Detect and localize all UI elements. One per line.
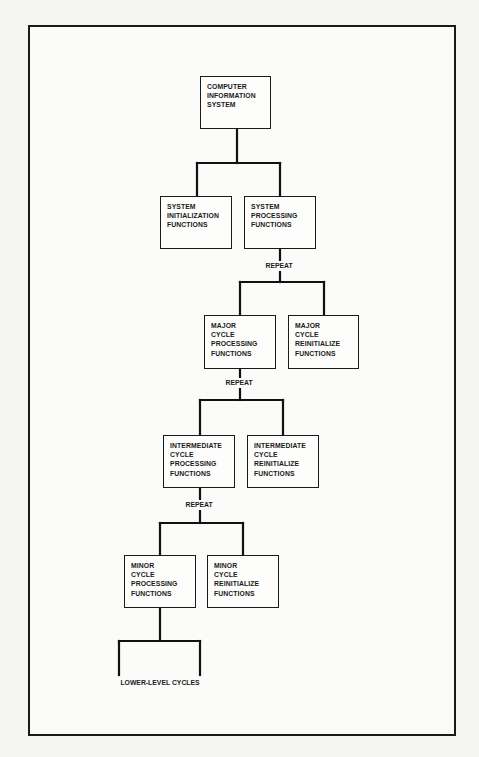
node-label: COMPUTER INFORMATION SYSTEM	[207, 82, 258, 110]
node-computer-information-system: COMPUTER INFORMATION SYSTEM	[200, 76, 271, 129]
node-label: SYSTEM PROCESSING FUNCTIONS	[251, 202, 303, 230]
node-system-processing-functions: SYSTEM PROCESSING FUNCTIONS	[244, 196, 316, 249]
repeat-label-2: REPEAT	[224, 378, 255, 388]
node-minor-cycle-reinitialize-functions: MINOR CYCLE REINITIALIZE FUNCTIONS	[207, 555, 279, 608]
node-intermediate-cycle-reinitialize-functions: INTERMEDIATE CYCLE REINITIALIZE FUNCTION…	[247, 435, 319, 488]
node-system-initialization-functions: SYSTEM INITIALIZATION FUNCTIONS	[160, 196, 232, 249]
node-label: INTERMEDIATE CYCLE REINITIALIZE FUNCTION…	[254, 441, 306, 478]
node-label: MINOR CYCLE REINITIALIZE FUNCTIONS	[214, 561, 266, 598]
node-label: INTERMEDIATE CYCLE PROCESSING FUNCTIONS	[170, 441, 222, 478]
node-label: MINOR CYCLE PROCESSING FUNCTIONS	[131, 561, 183, 598]
node-intermediate-cycle-processing-functions: INTERMEDIATE CYCLE PROCESSING FUNCTIONS	[163, 435, 235, 488]
node-label: MAJOR CYCLE PROCESSING FUNCTIONS	[211, 321, 263, 358]
node-major-cycle-reinitialize-functions: MAJOR CYCLE REINITIALIZE FUNCTIONS	[288, 315, 359, 369]
lower-level-cycles-label: LOWER-LEVEL CYCLES	[119, 678, 202, 688]
repeat-label-1: REPEAT	[264, 261, 295, 271]
node-minor-cycle-processing-functions: MINOR CYCLE PROCESSING FUNCTIONS	[124, 555, 196, 608]
node-label: SYSTEM INITIALIZATION FUNCTIONS	[167, 202, 219, 230]
repeat-label-3: REPEAT	[184, 500, 215, 510]
node-major-cycle-processing-functions: MAJOR CYCLE PROCESSING FUNCTIONS	[204, 315, 276, 369]
node-label: MAJOR CYCLE REINITIALIZE FUNCTIONS	[295, 321, 346, 358]
